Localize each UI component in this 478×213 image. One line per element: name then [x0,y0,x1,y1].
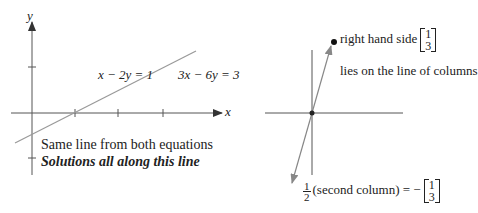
left-axes [11,22,222,175]
half-fraction: 12 [303,181,311,202]
rhs-text: right hand side [340,31,417,46]
second-column-text: (second column) = − [313,182,421,197]
solution-line [15,51,196,143]
caption-same-line: Same line from both equations [41,138,213,152]
y-axis-label: y [27,9,33,23]
rhs-label: right hand side13 [340,28,436,52]
equation-2-label: 3x − 6y = 3 [178,68,240,82]
column-vector-down [292,113,312,183]
equation-1-label: x − 2y = 1 [98,68,153,82]
second-column-label: 12(second column) = −13 [303,179,440,203]
caption-solutions: Solutions all along this line [41,155,200,169]
rhs-point [331,39,337,45]
column-vector-up [312,46,331,113]
origin-dot [310,111,315,116]
line-of-columns-note: lies on the line of columns [340,64,478,78]
second-column-vector: 13 [424,179,440,203]
rhs-vector: 13 [420,28,436,52]
x-axis-label: x [225,105,231,119]
